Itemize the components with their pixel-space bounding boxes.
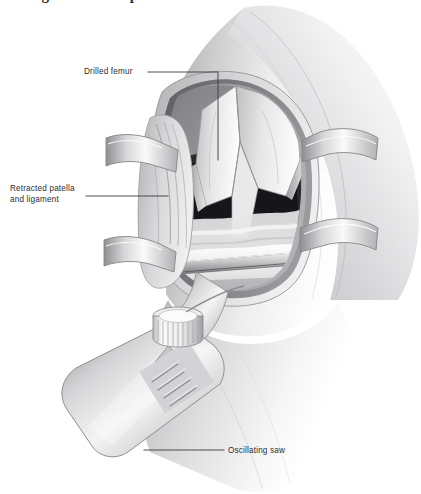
label-oscillating-saw: Oscillating saw: [228, 445, 285, 456]
figure-illustration: cutting of the tibial plateau.: [0, 0, 421, 494]
oscillating-saw-collar: [153, 307, 203, 347]
label-retracted-patella: Retracted patella and ligament: [10, 183, 75, 205]
label-drilled-femur: Drilled femur: [84, 66, 133, 77]
illustration-canvas: [0, 0, 421, 494]
